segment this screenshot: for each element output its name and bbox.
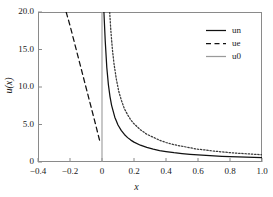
x-tick-label: 0.4 <box>149 167 183 176</box>
y-tick-label: 20.0 <box>0 7 34 16</box>
x-tick-label: −0.2 <box>53 167 87 176</box>
legend-item-ue: ue <box>205 37 261 50</box>
legend-item-u0: u0 <box>205 50 261 63</box>
y-axis-title: u(x) <box>3 66 14 106</box>
chart-figure: 05.010.015.020.0 −0.4−0.200.20.40.60.81.… <box>0 0 273 197</box>
legend-label: un <box>232 26 241 35</box>
x-axis-title: x <box>0 181 273 192</box>
series-line-ue <box>66 12 100 143</box>
y-tick-label: 15.0 <box>0 45 34 54</box>
x-tick-label: 0.8 <box>213 167 247 176</box>
x-tick-label: −0.4 <box>21 167 55 176</box>
chart-legend: unueu0 <box>205 24 261 63</box>
x-tick-label: 1.0 <box>245 167 273 176</box>
x-tick-label: 0.2 <box>117 167 151 176</box>
legend-line-sample <box>205 39 227 48</box>
legend-label: u0 <box>232 52 241 61</box>
x-tick-label: 0.6 <box>181 167 215 176</box>
y-tick-label: 5.0 <box>0 120 34 129</box>
legend-line-sample <box>205 52 227 61</box>
y-tick-label: 0 <box>0 157 34 166</box>
x-tick-label: 0 <box>85 167 119 176</box>
legend-item-un: un <box>205 24 261 37</box>
legend-line-sample <box>205 26 227 35</box>
legend-label: ue <box>232 39 241 48</box>
